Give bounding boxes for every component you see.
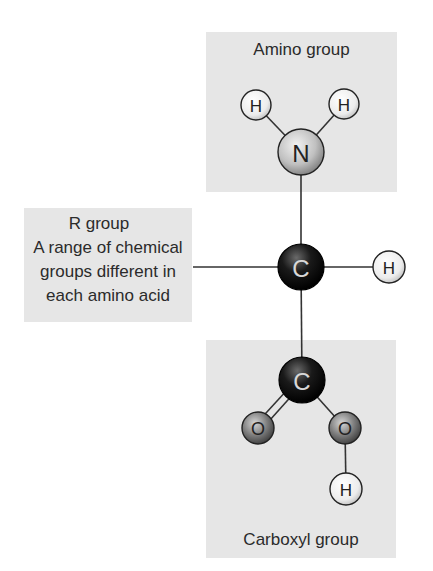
- svg-text:N: N: [292, 140, 309, 167]
- svg-text:C: C: [293, 368, 310, 395]
- svg-text:H: H: [383, 259, 395, 278]
- svg-text:H: H: [250, 97, 262, 116]
- atom-h-amino-left: H: [241, 90, 271, 120]
- atom-h-hydroxyl: H: [330, 473, 362, 505]
- svg-text:H: H: [338, 96, 350, 115]
- atom-carbon-alpha: C: [278, 244, 324, 290]
- svg-text:C: C: [292, 255, 309, 282]
- svg-text:H: H: [340, 481, 352, 500]
- svg-text:O: O: [338, 419, 352, 439]
- molecule-structure: H H N C H C O O H: [0, 0, 433, 571]
- atom-h-alpha: H: [373, 251, 405, 283]
- atom-oxygen-hydroxyl: O: [329, 412, 361, 444]
- svg-text:O: O: [251, 419, 265, 439]
- atom-carbon-carboxyl: C: [279, 357, 325, 403]
- atom-nitrogen: N: [278, 129, 324, 175]
- atom-h-amino-right: H: [329, 89, 359, 119]
- atom-oxygen-double: O: [242, 412, 274, 444]
